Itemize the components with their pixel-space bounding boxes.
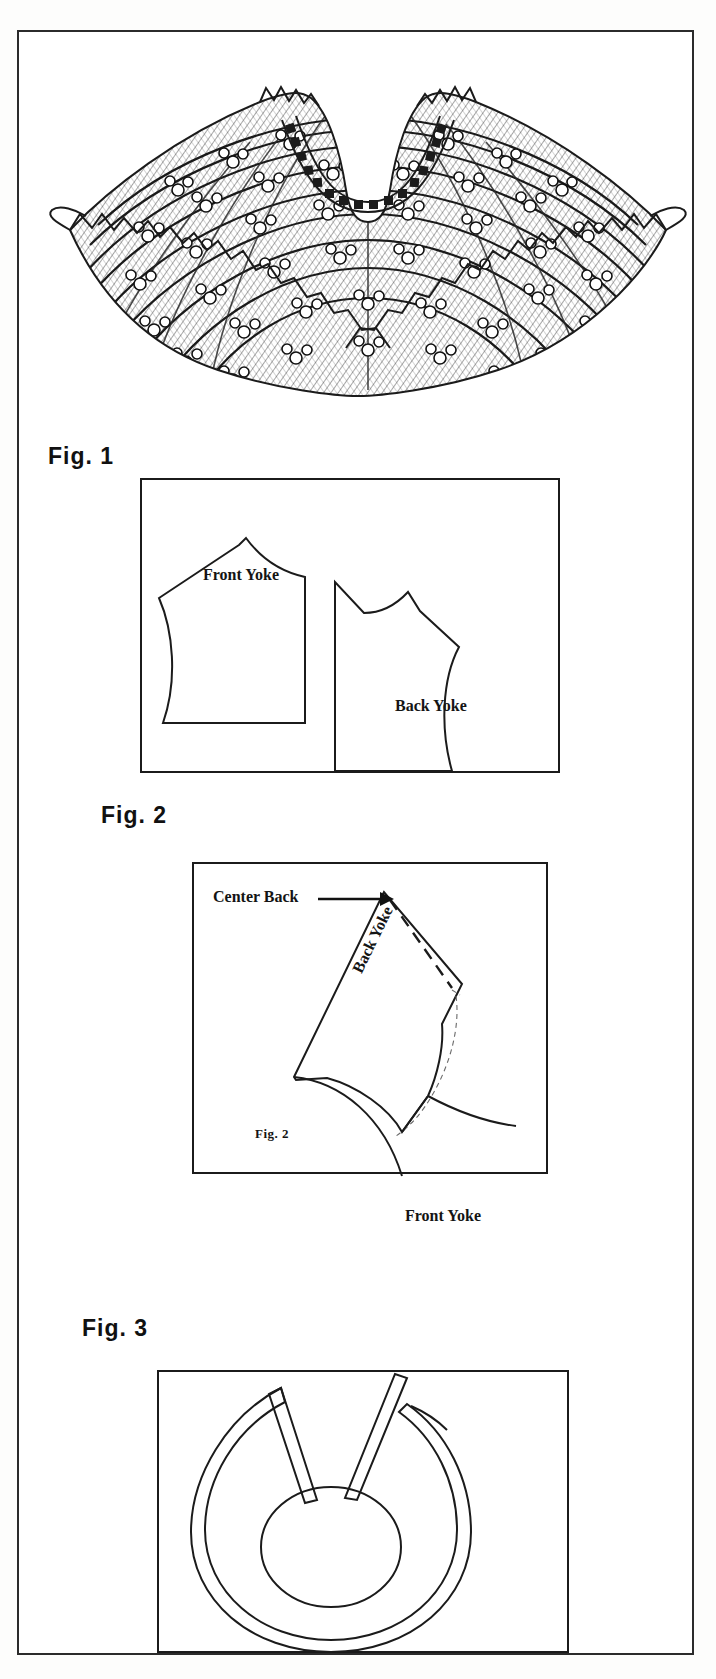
pattern-instruction-page: Fig. 1 Front Yoke Back Yoke Fig. 2 Cente… [0,0,716,1679]
fig2-box [192,862,548,1174]
fig1-front-yoke-label: Front Yoke [203,566,279,584]
fig1-back-yoke-outline [335,582,459,771]
fig3-outer-yoke-outline [191,1388,471,1652]
fig3-box [157,1370,569,1653]
fig1-back-yoke-label: Back Yoke [395,697,467,715]
fig2-seam-allowance [396,996,457,1136]
fig2-front-yoke-label: Front Yoke [405,1207,481,1225]
capelet-illustration [28,40,686,410]
fig3-right-dart-slit [345,1374,407,1500]
fig2-front-yoke-seam [402,1096,428,1132]
fig2-center-back-stitch [390,900,452,988]
fig1-title: Fig. 1 [48,443,114,470]
fig2-inner-label: Fig. 2 [255,1126,289,1142]
fig1-box [140,478,560,773]
fig3-title: Fig. 3 [82,1315,148,1342]
fig2-title: Fig. 2 [101,802,167,829]
fig2-front-yoke-curve [294,1077,402,1176]
fig3-left-dart-slit [269,1388,317,1503]
fig2-center-back-label: Center Back [213,888,298,906]
fig3-neck-opening [261,1487,401,1607]
